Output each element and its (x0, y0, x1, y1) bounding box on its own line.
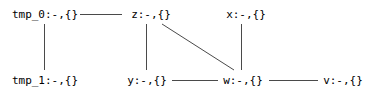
node-tmp_0: tmp_0:-,{} (11, 8, 79, 21)
node-y: y:-,{} (126, 74, 168, 87)
node-x: x:-,{} (225, 8, 267, 21)
node-z: z:-,{} (130, 8, 172, 21)
graph-diagram: tmp_0:-,{}z:-,{}x:-,{}tmp_1:-,{}y:-,{}w:… (0, 0, 371, 95)
node-tmp_1: tmp_1:-,{} (11, 74, 79, 87)
edge-z-w (162, 24, 234, 70)
node-w: w:-,{} (222, 74, 264, 87)
node-v: v:-,{} (322, 74, 364, 87)
